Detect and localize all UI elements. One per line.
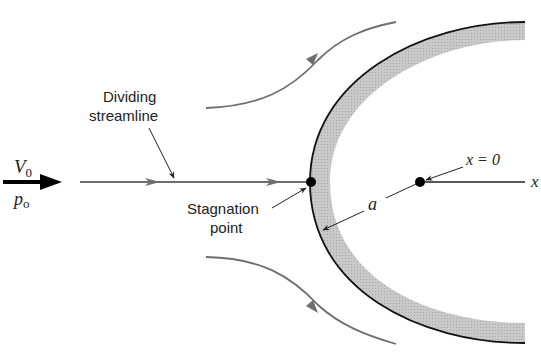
radius-label: a — [368, 194, 377, 214]
stagnation-point-label-line2: point — [210, 219, 243, 236]
dividing-streamline — [80, 178, 310, 186]
stagnation-flow-diagram: V0 po Dividing streamline Stagnation poi… — [0, 0, 541, 354]
radius-line-upper — [386, 184, 416, 198]
x-axis-label: x — [530, 172, 539, 191]
dividing-streamline-label-line2: streamline — [89, 107, 158, 124]
velocity-label: V0 — [14, 156, 32, 180]
stagnation-point-marker — [306, 177, 316, 187]
lower-streamline — [206, 257, 396, 344]
freestream-arrow-icon — [3, 174, 62, 190]
pressure-label: po — [12, 189, 30, 211]
origin-leader-line — [426, 167, 463, 180]
dividing-streamline-label-line1: Dividing — [103, 88, 156, 105]
dividing-leader-line — [149, 128, 174, 178]
stagnation-leader-line — [272, 188, 306, 208]
origin-marker — [415, 177, 425, 187]
stagnation-point-label-line1: Stagnation — [187, 200, 259, 217]
origin-label: x = 0 — [465, 151, 500, 168]
